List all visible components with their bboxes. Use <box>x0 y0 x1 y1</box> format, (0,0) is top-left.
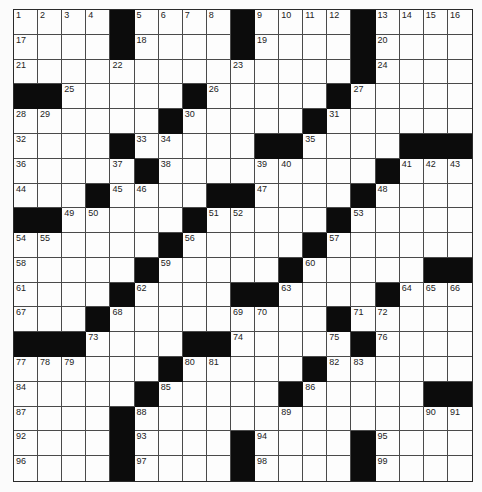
grid-cell[interactable] <box>38 283 62 308</box>
grid-cell[interactable] <box>400 407 424 432</box>
grid-cell[interactable] <box>231 357 255 382</box>
grid-cell[interactable] <box>376 407 400 432</box>
grid-cell[interactable]: 86 <box>303 382 327 407</box>
grid-cell[interactable]: 5 <box>135 10 159 35</box>
grid-cell[interactable] <box>207 431 231 456</box>
grid-cell[interactable] <box>424 332 448 357</box>
grid-cell[interactable] <box>327 382 351 407</box>
grid-cell[interactable] <box>231 407 255 432</box>
grid-cell[interactable] <box>207 307 231 332</box>
grid-cell[interactable]: 40 <box>279 159 303 184</box>
grid-cell[interactable] <box>255 84 279 109</box>
grid-cell[interactable] <box>38 35 62 60</box>
grid-cell[interactable] <box>135 84 159 109</box>
grid-cell[interactable]: 64 <box>400 283 424 308</box>
grid-cell[interactable] <box>62 159 86 184</box>
grid-cell[interactable]: 18 <box>135 35 159 60</box>
grid-cell[interactable]: 27 <box>351 84 375 109</box>
grid-cell[interactable] <box>424 233 448 258</box>
grid-cell[interactable] <box>231 109 255 134</box>
grid-cell[interactable]: 95 <box>376 431 400 456</box>
grid-cell[interactable]: 94 <box>255 431 279 456</box>
grid-cell[interactable] <box>303 283 327 308</box>
grid-cell[interactable]: 92 <box>14 431 38 456</box>
grid-cell[interactable] <box>279 233 303 258</box>
grid-cell[interactable] <box>86 431 110 456</box>
grid-cell[interactable]: 88 <box>135 407 159 432</box>
grid-cell[interactable] <box>62 134 86 159</box>
grid-cell[interactable] <box>110 84 134 109</box>
grid-cell[interactable] <box>183 134 207 159</box>
grid-cell[interactable] <box>62 431 86 456</box>
grid-cell[interactable] <box>159 208 183 233</box>
grid-cell[interactable]: 68 <box>110 307 134 332</box>
grid-cell[interactable]: 72 <box>376 307 400 332</box>
grid-cell[interactable] <box>135 233 159 258</box>
grid-cell[interactable]: 49 <box>62 208 86 233</box>
grid-cell[interactable] <box>135 109 159 134</box>
grid-cell[interactable] <box>207 60 231 85</box>
grid-cell[interactable] <box>86 233 110 258</box>
grid-cell[interactable] <box>400 208 424 233</box>
grid-cell[interactable]: 23 <box>231 60 255 85</box>
grid-cell[interactable]: 69 <box>231 307 255 332</box>
grid-cell[interactable] <box>255 382 279 407</box>
grid-cell[interactable] <box>424 184 448 209</box>
grid-cell[interactable]: 66 <box>448 283 472 308</box>
grid-cell[interactable] <box>38 456 62 481</box>
grid-cell[interactable] <box>279 208 303 233</box>
grid-cell[interactable]: 3 <box>62 10 86 35</box>
grid-cell[interactable]: 14 <box>400 10 424 35</box>
grid-cell[interactable] <box>424 307 448 332</box>
grid-cell[interactable]: 70 <box>255 307 279 332</box>
grid-cell[interactable] <box>400 456 424 481</box>
grid-cell[interactable] <box>351 407 375 432</box>
grid-cell[interactable] <box>303 307 327 332</box>
grid-cell[interactable] <box>279 431 303 456</box>
grid-cell[interactable] <box>110 332 134 357</box>
grid-cell[interactable] <box>279 35 303 60</box>
grid-cell[interactable] <box>376 134 400 159</box>
grid-cell[interactable] <box>376 357 400 382</box>
grid-cell[interactable]: 24 <box>376 60 400 85</box>
grid-cell[interactable] <box>424 357 448 382</box>
grid-cell[interactable]: 63 <box>279 283 303 308</box>
grid-cell[interactable] <box>255 357 279 382</box>
grid-cell[interactable]: 82 <box>327 357 351 382</box>
grid-cell[interactable] <box>183 60 207 85</box>
grid-cell[interactable]: 10 <box>279 10 303 35</box>
grid-cell[interactable]: 93 <box>135 431 159 456</box>
grid-cell[interactable] <box>183 307 207 332</box>
grid-cell[interactable] <box>279 332 303 357</box>
grid-cell[interactable] <box>207 407 231 432</box>
grid-cell[interactable] <box>400 84 424 109</box>
grid-cell[interactable]: 77 <box>14 357 38 382</box>
grid-cell[interactable] <box>38 407 62 432</box>
grid-cell[interactable]: 89 <box>279 407 303 432</box>
grid-cell[interactable] <box>448 109 472 134</box>
grid-cell[interactable] <box>327 258 351 283</box>
grid-cell[interactable] <box>279 456 303 481</box>
grid-cell[interactable]: 96 <box>14 456 38 481</box>
grid-cell[interactable]: 52 <box>231 208 255 233</box>
grid-cell[interactable]: 21 <box>14 60 38 85</box>
grid-cell[interactable] <box>279 307 303 332</box>
grid-cell[interactable]: 28 <box>14 109 38 134</box>
grid-cell[interactable] <box>255 60 279 85</box>
grid-cell[interactable] <box>279 60 303 85</box>
grid-cell[interactable]: 78 <box>38 357 62 382</box>
grid-cell[interactable]: 71 <box>351 307 375 332</box>
grid-cell[interactable] <box>135 357 159 382</box>
grid-cell[interactable] <box>351 233 375 258</box>
grid-cell[interactable] <box>400 60 424 85</box>
grid-cell[interactable] <box>62 109 86 134</box>
grid-cell[interactable] <box>303 208 327 233</box>
grid-cell[interactable] <box>110 258 134 283</box>
grid-cell[interactable] <box>135 332 159 357</box>
grid-cell[interactable] <box>183 258 207 283</box>
grid-cell[interactable]: 32 <box>14 134 38 159</box>
grid-cell[interactable] <box>327 60 351 85</box>
grid-cell[interactable] <box>38 159 62 184</box>
grid-cell[interactable] <box>424 431 448 456</box>
grid-cell[interactable] <box>38 382 62 407</box>
